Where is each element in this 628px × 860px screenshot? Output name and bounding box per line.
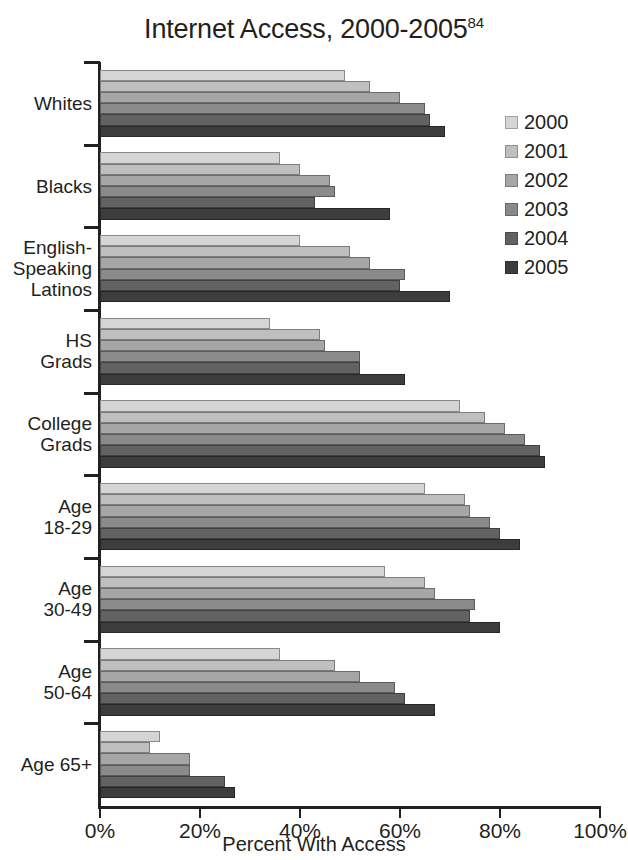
- internet-access-bar-chart: Internet Access, 2000-200584 WhitesBlack…: [0, 0, 628, 860]
- y-axis-label-line: Grads: [0, 351, 92, 372]
- bar-group: [100, 648, 600, 715]
- bar: [100, 126, 445, 137]
- bar: [100, 434, 525, 445]
- bar-row: [100, 693, 600, 704]
- y-axis-top-cap: [84, 61, 100, 64]
- bar-row: [100, 566, 600, 577]
- bar-row: [100, 528, 600, 539]
- bar: [100, 753, 190, 764]
- bar-row: [100, 517, 600, 528]
- bar: [100, 351, 360, 362]
- bar-row: [100, 539, 600, 550]
- legend-item-2001[interactable]: 2001: [505, 137, 625, 166]
- bar: [100, 70, 345, 81]
- legend-label: 2002: [524, 169, 569, 192]
- legend-label: 2005: [524, 256, 569, 279]
- bar-group: [100, 566, 600, 633]
- y-axis-label-line: Whites: [0, 93, 92, 114]
- bar: [100, 610, 470, 621]
- bar: [100, 445, 540, 456]
- legend-item-2004[interactable]: 2004: [505, 224, 625, 253]
- bar: [100, 494, 465, 505]
- y-axis-label-line: Age 65+: [0, 754, 92, 775]
- x-tick-60: [399, 809, 401, 818]
- y-axis-label-line: Speaking: [0, 258, 92, 279]
- bar-row: [100, 588, 600, 599]
- bar-row: [100, 494, 600, 505]
- bar: [100, 704, 435, 715]
- bar: [100, 269, 405, 280]
- bar: [100, 505, 470, 516]
- bar: [100, 682, 395, 693]
- y-axis-group-separator: [84, 474, 100, 477]
- bar-group: [100, 400, 600, 467]
- y-axis-label-line: Latinos: [0, 279, 92, 300]
- legend-label: 2001: [524, 140, 569, 163]
- y-axis-label-line: 50-64: [0, 682, 92, 703]
- legend-label: 2003: [524, 198, 569, 221]
- y-axis-label-age-18-29: Age18-29: [0, 496, 92, 538]
- bar: [100, 186, 335, 197]
- y-axis-group-separator: [84, 309, 100, 312]
- y-axis-label-line: Blacks: [0, 176, 92, 197]
- y-axis-label-line: 30-49: [0, 599, 92, 620]
- chart-title-text: Internet Access, 2000-2005: [144, 14, 468, 44]
- x-tick-100: [599, 809, 601, 818]
- x-axis-title: Percent With Access: [0, 833, 628, 856]
- bar: [100, 362, 360, 373]
- x-tick-40: [299, 809, 301, 818]
- bar-row: [100, 423, 600, 434]
- bar: [100, 400, 460, 411]
- y-axis-label-line: Grads: [0, 434, 92, 455]
- bar-row: [100, 742, 600, 753]
- bar: [100, 456, 545, 467]
- legend-item-2002[interactable]: 2002: [505, 166, 625, 195]
- bar: [100, 648, 280, 659]
- bar: [100, 114, 430, 125]
- bar-row: [100, 622, 600, 633]
- y-axis-group-separator: [84, 226, 100, 229]
- bar: [100, 742, 150, 753]
- bar: [100, 776, 225, 787]
- legend-item-2003[interactable]: 2003: [505, 195, 625, 224]
- bar-row: [100, 787, 600, 798]
- bar: [100, 81, 370, 92]
- bar-row: [100, 682, 600, 693]
- bar-row: [100, 412, 600, 423]
- bar: [100, 765, 190, 776]
- bar-row: [100, 704, 600, 715]
- bar: [100, 588, 435, 599]
- bar: [100, 208, 390, 219]
- y-axis-group-separator: [84, 557, 100, 560]
- bar-row: [100, 660, 600, 671]
- y-axis-label-line: Age: [0, 661, 92, 682]
- bar-row: [100, 70, 600, 81]
- bar: [100, 671, 360, 682]
- y-axis-labels: WhitesBlacksEnglish-SpeakingLatinosHSGra…: [0, 62, 92, 806]
- bar: [100, 103, 425, 114]
- bar: [100, 787, 235, 798]
- bar: [100, 660, 335, 671]
- y-axis-group-separator: [84, 640, 100, 643]
- bar: [100, 517, 490, 528]
- bar: [100, 566, 385, 577]
- x-tick-0: [99, 809, 101, 818]
- bar-row: [100, 400, 600, 411]
- bar-row: [100, 340, 600, 351]
- bar: [100, 622, 500, 633]
- bar: [100, 92, 400, 103]
- legend-item-2005[interactable]: 2005: [505, 253, 625, 282]
- legend-swatch-icon: [505, 145, 518, 158]
- legend-item-2000[interactable]: 2000: [505, 108, 625, 137]
- bar: [100, 528, 500, 539]
- bar: [100, 175, 330, 186]
- y-axis-label-hs-grads: HSGrads: [0, 330, 92, 372]
- bar-row: [100, 776, 600, 787]
- bar-group: [100, 483, 600, 550]
- bar: [100, 539, 520, 550]
- bar-row: [100, 505, 600, 516]
- bar-row: [100, 456, 600, 467]
- x-tick-80: [499, 809, 501, 818]
- bar-row: [100, 434, 600, 445]
- bar-row: [100, 483, 600, 494]
